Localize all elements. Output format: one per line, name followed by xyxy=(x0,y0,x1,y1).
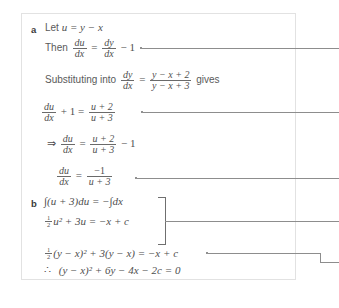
connector-line-5b xyxy=(320,262,339,263)
connector-line-3 xyxy=(137,178,339,179)
fraction-one-half-1: 1 2 xyxy=(45,215,52,229)
connector-line-1 xyxy=(142,48,339,49)
fraction-numerator: −1 xyxy=(87,166,113,176)
fraction-u2-over-u3-2: u + 2 u + 3 xyxy=(90,134,116,155)
equation-integral: ∫(u + 3)du = −∫dx xyxy=(44,196,123,207)
word-then: Then xyxy=(45,42,68,53)
equation-let-u: Let u = y − x xyxy=(45,22,103,33)
fraction-du-dx-1: du dx xyxy=(73,38,87,59)
fraction-denominator: dx xyxy=(61,144,75,155)
equation-half-u-squared: 1 2 u² + 3u = −x + c xyxy=(44,215,129,229)
fraction-denominator: 2 xyxy=(45,221,52,229)
fraction-denominator: dx xyxy=(102,48,115,59)
fraction-numerator: du xyxy=(57,166,71,176)
equation-du-dx-plus-one: du dx + 1 = u + 2 u + 3 xyxy=(40,102,117,123)
therefore-symbol-icon: ∴ xyxy=(44,264,51,276)
fraction-du-dx-4: du dx xyxy=(57,166,71,187)
fraction-y-x-2-over-y-x-3: y − x + 2 y − x + 3 xyxy=(150,70,191,91)
fraction-denominator: y − x + 3 xyxy=(150,80,191,91)
fraction-du-dx-2: du dx xyxy=(42,102,56,123)
part-label-b: b xyxy=(31,198,37,209)
fraction-denominator: 2 xyxy=(45,253,52,261)
fraction-one-half-2: 1 2 xyxy=(45,247,52,261)
fraction-numerator: du xyxy=(61,134,75,144)
fraction-numerator: du xyxy=(42,102,56,112)
fraction-numerator: du xyxy=(73,38,87,48)
connector-line-4 xyxy=(165,221,339,222)
equals-sign: = xyxy=(91,41,97,53)
equation-implies-du-dx: ⇒ du dx = u + 2 u + 3 − 1 xyxy=(47,134,135,155)
tail-minus-one: − 1 xyxy=(120,41,134,53)
fraction-numerator: u + 2 xyxy=(89,102,115,112)
fraction-denominator: dx xyxy=(42,112,56,123)
fraction-numerator: dy xyxy=(102,38,115,48)
fraction-numerator: u + 2 xyxy=(90,134,116,144)
fraction-u2-over-u3-1: u + 2 u + 3 xyxy=(89,102,115,123)
equation-then-du-dx: Then du dx = dy dx − 1 xyxy=(45,38,135,59)
fraction-du-dx-3: du dx xyxy=(61,134,75,155)
words-substituting-into: Substituting into xyxy=(45,74,116,85)
fraction-denominator: dx xyxy=(121,80,134,91)
equals-sign: = xyxy=(139,73,145,85)
equation-substitute-back: 1 2 (y − x)² + 3(y − x) = −x + c xyxy=(44,247,178,261)
fraction-denominator: dx xyxy=(73,48,87,59)
implies-arrow-icon: ⇒ xyxy=(47,137,56,149)
fraction-denominator: dx xyxy=(57,176,71,187)
screenshot-stage: a Let u = y − x Then du dx = dy dx − 1 S… xyxy=(0,0,339,308)
plus-one-equals: + 1 = xyxy=(61,105,84,117)
connector-line-2 xyxy=(143,112,339,113)
fraction-numerator: dy xyxy=(121,70,134,80)
fraction-numerator: y − x + 2 xyxy=(150,70,191,80)
equals-sign: = xyxy=(76,169,82,181)
word-gives: gives xyxy=(196,74,219,85)
word-let: Let xyxy=(45,22,59,33)
fraction-dy-dx-2: dy dx xyxy=(121,70,134,91)
equals-sign: = xyxy=(80,137,86,149)
fraction-minus1-over-u3: −1 u + 3 xyxy=(87,166,113,187)
fraction-dy-dx-1: dy dx xyxy=(102,38,115,59)
expr-y-minus-x-squared: (y − x)² + 3(y − x) = −x + c xyxy=(53,247,178,259)
fraction-denominator: u + 3 xyxy=(89,112,115,123)
equation-substituting: Substituting into dy dx = y − x + 2 y − … xyxy=(45,70,220,91)
tail-minus-one: − 1 xyxy=(121,137,135,149)
equation-final: ∴ (y − x)² + 6y − 4x − 2c = 0 xyxy=(44,265,180,276)
expr-u-squared-plus-3u: u² + 3u = −x + c xyxy=(53,215,129,227)
expr-u-equals-y-minus-x: u = y − x xyxy=(62,21,103,33)
expr-final-result: (y − x)² + 6y − 4x − 2c = 0 xyxy=(59,264,181,276)
fraction-denominator: u + 3 xyxy=(87,176,113,187)
fraction-denominator: u + 3 xyxy=(90,144,116,155)
connector-line-5a xyxy=(208,253,320,254)
equation-du-dx-equals-minus-one-over: du dx = −1 u + 3 xyxy=(55,166,114,187)
part-label-a: a xyxy=(31,24,36,35)
